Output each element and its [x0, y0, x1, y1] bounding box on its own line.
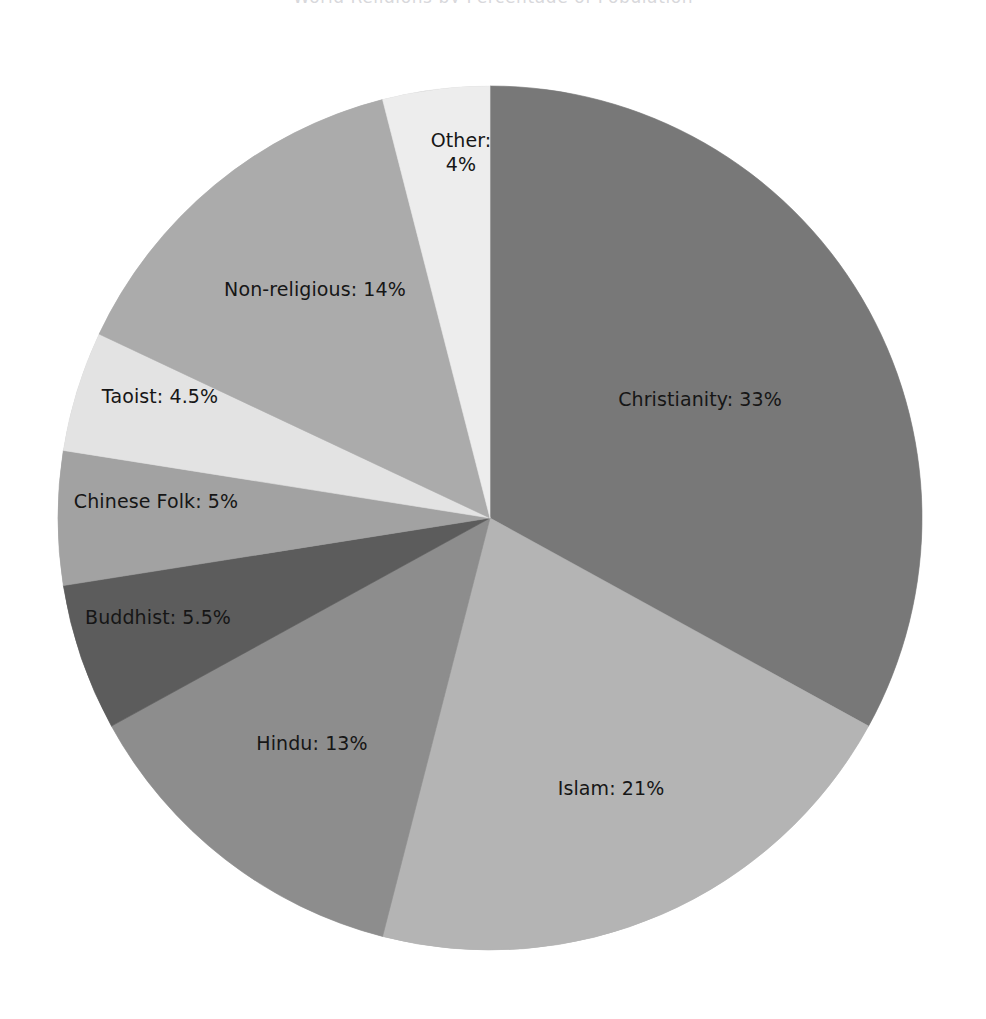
pie-chart-svg — [0, 0, 986, 1019]
pie-slice-group — [58, 86, 922, 950]
pie-chart-plot-area: Christianity: 33%Islam: 21%Hindu: 13%Bud… — [0, 0, 986, 1019]
